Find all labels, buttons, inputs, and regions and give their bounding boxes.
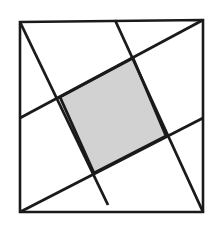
geometry-figure: [0, 0, 222, 231]
shaded-quadrilateral: [60, 58, 166, 173]
figure-container: [0, 0, 222, 231]
